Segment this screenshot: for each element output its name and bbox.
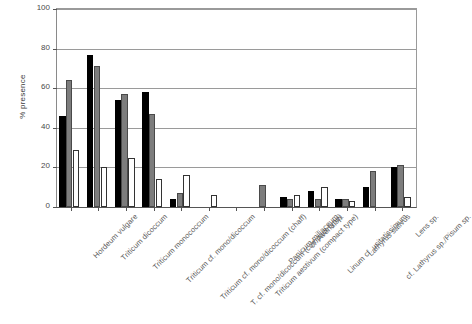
x-tick-mark [264,207,265,211]
bar [177,193,183,207]
bar-group [195,9,223,207]
x-tick-mark [98,207,99,211]
x-tick-mark [347,207,348,211]
bar [101,167,107,207]
bar [156,179,162,207]
x-tick-mark [319,207,320,211]
bar [211,195,217,207]
x-tick-mark [126,207,127,211]
bar-group [361,9,389,207]
bar [308,191,314,207]
bar [391,167,397,207]
bar-group [250,9,278,207]
bar-group [167,9,195,207]
x-axis-label: Triticum aestivum (compact type) [273,212,360,299]
x-tick-mark [402,207,403,211]
y-tick-label: 40 [24,123,50,131]
bar [170,199,176,207]
y-tick-mark [53,207,57,208]
bar [87,55,93,207]
bar [115,100,121,207]
y-tick-label: 80 [24,44,50,52]
bar [363,187,369,207]
bar [142,92,148,207]
x-tick-mark [181,207,182,211]
bar [259,185,265,207]
bar [335,199,341,207]
bar-group [333,9,361,207]
bar [294,195,300,207]
bar [280,197,286,207]
bar-group [57,9,85,207]
bar-group [388,9,416,207]
x-axis-label: cf. Lathyrus sp./Pisum sp. [403,212,472,281]
bar [404,197,410,207]
bars-layer [57,9,416,207]
bar [66,80,72,207]
x-tick-mark [209,207,210,211]
bar [370,171,376,207]
bar [315,199,321,207]
y-tick-label: 20 [24,162,50,170]
bar [73,150,79,207]
bar [128,158,134,208]
bar [183,175,189,207]
x-axis-label: Lens sp. [414,212,441,239]
x-tick-mark [71,207,72,211]
bar-group [112,9,140,207]
bar [59,116,65,207]
bar-group [140,9,168,207]
bar [149,114,155,207]
bar-group [278,9,306,207]
y-tick-label: 100 [24,4,50,12]
bar-group [306,9,334,207]
bar [287,199,293,207]
bar [321,187,327,207]
x-tick-mark [375,207,376,211]
x-tick-mark [236,207,237,211]
bar [121,94,127,207]
x-axis-label: Lathyrus sativus [366,212,412,258]
plot-area [56,8,417,208]
bar [397,165,403,207]
bar [349,201,355,207]
bar [342,199,348,207]
y-axis-tick-labels: 020406080100 [22,0,50,324]
bar [94,66,100,207]
x-tick-mark [292,207,293,211]
bar-group [85,9,113,207]
bar-group [223,9,251,207]
x-tick-mark [154,207,155,211]
y-tick-label: 0 [24,202,50,210]
y-tick-label: 60 [24,83,50,91]
